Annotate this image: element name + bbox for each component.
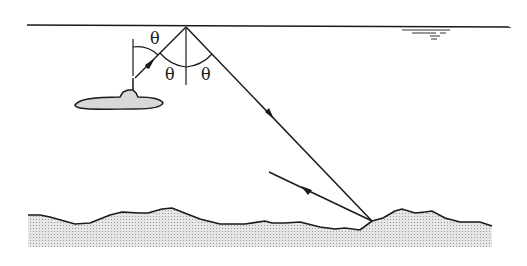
sonar-diagram: θ θ θ [0, 0, 527, 266]
sea-surface [27, 25, 511, 39]
incident-ray [135, 27, 186, 78]
submarine [75, 78, 163, 109]
seabed-return-ray [269, 172, 372, 221]
seabed [28, 208, 492, 247]
theta-label-upper-left: θ [150, 29, 160, 48]
angle-arcs [133, 47, 212, 67]
theta-label-lower-left: θ [165, 65, 175, 84]
return-arrow-icon [301, 186, 312, 195]
theta-label-lower-right: θ [201, 65, 211, 84]
reflected-arrow-icon [265, 108, 274, 119]
surface-ripple-marks [402, 30, 450, 39]
reflected-ray [186, 27, 372, 221]
